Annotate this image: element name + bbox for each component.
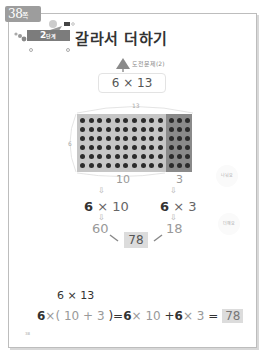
array-dot — [106, 118, 111, 123]
array-dot — [177, 127, 182, 132]
arrow-down-icon: ⇩ — [170, 186, 177, 195]
eq-part: 3 — [97, 309, 105, 323]
left-factor: 6 — [84, 199, 93, 214]
right-product: 18 — [166, 221, 183, 236]
array-dot — [149, 136, 154, 141]
right-op: × — [173, 199, 184, 214]
array-dot — [106, 163, 111, 168]
array-dot — [185, 145, 190, 150]
array-dot — [80, 154, 85, 159]
array-dot — [158, 154, 163, 159]
array-dot — [132, 118, 137, 123]
arrow-down-icon: ⇩ — [98, 186, 105, 195]
array-dot — [169, 145, 174, 150]
array-dot — [123, 136, 128, 141]
eq-part: 3 — [197, 309, 205, 323]
array-dot — [149, 127, 154, 132]
array-dot — [89, 154, 94, 159]
eq-part: 10 — [145, 309, 160, 323]
array-dot — [177, 163, 182, 168]
array-dot — [185, 136, 190, 141]
right-value: 3 — [188, 199, 196, 214]
left-product-expression: 6 × 10 — [84, 199, 129, 214]
eq-part: 6 — [175, 309, 183, 323]
side-note-split: 나눠요 — [216, 165, 238, 187]
array-dot — [185, 118, 190, 123]
array-dot — [132, 145, 137, 150]
array-dot — [106, 145, 111, 150]
side-length-label: 6 — [68, 140, 72, 147]
array-dot — [89, 127, 94, 132]
array-dot — [115, 118, 120, 123]
array-dot — [115, 145, 120, 150]
equation-answer: 78 — [222, 309, 243, 323]
array-dot — [97, 145, 102, 150]
array-dot — [89, 136, 94, 141]
array-dot — [132, 136, 137, 141]
array-dot — [123, 163, 128, 168]
right-product-expression: 6 × 3 — [160, 199, 197, 214]
array-dot — [141, 118, 146, 123]
dot-array — [77, 114, 192, 172]
eq-part: 6 — [123, 309, 131, 323]
problem-box: 6 × 13 — [98, 73, 166, 93]
array-dot — [149, 154, 154, 159]
page-title: 갈라서 더하기 — [75, 27, 168, 48]
array-dot — [177, 154, 182, 159]
array-dot — [177, 136, 182, 141]
array-dot — [106, 154, 111, 159]
top-length-label: 13 — [132, 102, 140, 109]
array-dot — [80, 118, 85, 123]
array-dot — [141, 127, 146, 132]
array-dot — [97, 127, 102, 132]
array-dot — [89, 145, 94, 150]
eq-part: + — [165, 309, 175, 323]
array-dot — [97, 154, 102, 159]
left-product: 60 — [92, 221, 109, 236]
array-dot — [149, 145, 154, 150]
array-dot — [169, 163, 174, 168]
page-badge-suffix: 쪽 — [22, 12, 28, 20]
array-dot — [132, 127, 137, 132]
array-dot — [123, 154, 128, 159]
array-dot — [115, 136, 120, 141]
array-dot — [80, 136, 85, 141]
eq-part: × — [183, 309, 193, 323]
eq-part: = — [113, 309, 123, 323]
array-dot — [97, 118, 102, 123]
left-op: × — [97, 199, 108, 214]
array-dot — [169, 136, 174, 141]
array-dot — [80, 163, 85, 168]
array-dot — [158, 145, 163, 150]
left-value: 10 — [112, 199, 129, 214]
array-dot — [185, 127, 190, 132]
triangle-flag-icon — [116, 58, 130, 72]
step-tag: 2단계 — [27, 30, 70, 41]
array-dot — [185, 154, 190, 159]
array-dot — [158, 163, 163, 168]
page-badge-number: 38 — [8, 7, 22, 21]
array-dot — [106, 127, 111, 132]
eq-part: 10 — [64, 309, 79, 323]
array-dot — [123, 118, 128, 123]
array-dot — [123, 145, 128, 150]
equation-title: 6 × 13 — [57, 289, 94, 302]
array-dot — [158, 136, 163, 141]
array-dot — [169, 118, 174, 123]
array-dot — [177, 145, 182, 150]
array-dot — [80, 127, 85, 132]
distributive-equation: 6×( 10 + 3 )=6× 10 +6× 3 = 78 — [37, 309, 243, 323]
side-note-add: 더해요 — [218, 213, 240, 235]
array-dot — [141, 154, 146, 159]
array-dot — [89, 118, 94, 123]
array-dot — [141, 163, 146, 168]
array-dot — [158, 127, 163, 132]
array-dot — [115, 163, 120, 168]
array-dot — [115, 127, 120, 132]
array-dot — [149, 118, 154, 123]
eq-part: = — [208, 309, 218, 323]
array-dot — [141, 145, 146, 150]
array-model: 13 6 — [60, 100, 220, 190]
array-dot — [169, 154, 174, 159]
eq-part: ×( — [45, 309, 60, 323]
